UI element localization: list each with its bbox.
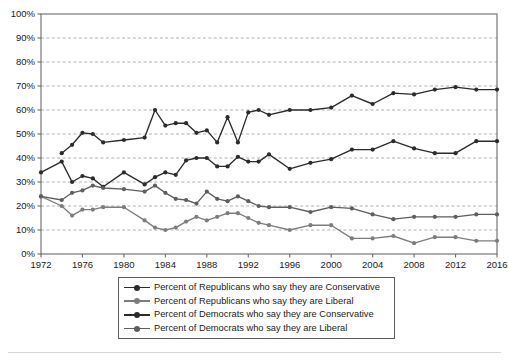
y-tick-label: 40%	[16, 152, 36, 163]
data-point	[267, 223, 271, 227]
data-point	[122, 187, 126, 191]
data-point	[122, 138, 126, 142]
data-point	[215, 140, 219, 144]
y-tick-label: 90%	[16, 32, 36, 43]
legend-item-dem-liberal[interactable]: Percent of Democrats who say they are Li…	[124, 322, 389, 336]
data-point	[60, 204, 64, 208]
data-point	[412, 146, 416, 150]
data-point	[80, 208, 84, 212]
x-tick-label: 2012	[445, 259, 466, 270]
data-point	[91, 208, 95, 212]
data-point	[257, 160, 261, 164]
series-line	[41, 186, 497, 220]
data-point	[80, 188, 84, 192]
data-point	[70, 214, 74, 218]
line-marker-icon	[124, 309, 150, 321]
data-point	[288, 205, 292, 209]
series-dem_conservative	[39, 139, 499, 189]
chart-legend: Percent of Republicans who say they are …	[118, 277, 395, 339]
data-point	[329, 106, 333, 110]
data-point	[236, 211, 240, 215]
y-tick-label: 0%	[21, 248, 35, 259]
data-point	[60, 198, 64, 202]
data-point	[122, 170, 126, 174]
data-point	[174, 197, 178, 201]
data-point	[257, 108, 261, 112]
data-point	[143, 190, 147, 194]
data-point	[143, 218, 147, 222]
legend-label: Percent of Democrats who say they are Co…	[154, 308, 374, 322]
data-point	[267, 152, 271, 156]
data-point	[60, 151, 64, 155]
bottom-divider	[8, 352, 501, 353]
x-tick-label: 2000	[321, 259, 342, 270]
data-point	[391, 91, 395, 95]
data-point	[80, 131, 84, 135]
data-point	[184, 121, 188, 125]
data-point	[308, 210, 312, 214]
legend-item-rep-liberal[interactable]: Percent of Republicans who say they are …	[124, 295, 389, 309]
legend-label: Percent of Republicans who say they are …	[154, 281, 380, 295]
data-point	[267, 113, 271, 117]
data-point	[288, 167, 292, 171]
data-point	[91, 184, 95, 188]
y-tick-label: 10%	[16, 224, 36, 235]
line-marker-icon	[124, 282, 150, 294]
data-point	[184, 220, 188, 224]
data-point	[225, 211, 229, 215]
data-point	[80, 174, 84, 178]
y-tick-label: 20%	[16, 200, 36, 211]
data-point	[412, 215, 416, 219]
data-point	[174, 173, 178, 177]
data-point	[153, 108, 157, 112]
data-point	[205, 128, 209, 132]
line-marker-icon	[124, 323, 150, 335]
data-point	[225, 199, 229, 203]
data-point	[391, 217, 395, 221]
data-point	[101, 186, 105, 190]
line-marker-icon	[124, 295, 150, 307]
data-point	[246, 216, 250, 220]
data-point	[474, 88, 478, 92]
legend-item-rep-conservative[interactable]: Percent of Republicans who say they are …	[124, 281, 389, 295]
data-point	[174, 226, 178, 230]
data-point	[308, 108, 312, 112]
data-point	[70, 191, 74, 195]
data-point	[194, 156, 198, 160]
data-point	[433, 215, 437, 219]
data-point	[153, 226, 157, 230]
legend-dot	[134, 285, 140, 291]
data-point	[246, 199, 250, 203]
data-point	[91, 132, 95, 136]
data-point	[371, 212, 375, 216]
data-point	[194, 215, 198, 219]
x-tick-label: 1988	[196, 259, 217, 270]
legend-label: Percent of Republicans who say they are …	[154, 295, 353, 309]
data-point	[474, 212, 478, 216]
data-point	[163, 228, 167, 232]
data-point	[453, 235, 457, 239]
legend-item-dem-conservative[interactable]: Percent of Democrats who say they are Co…	[124, 308, 389, 322]
data-point	[194, 131, 198, 135]
series-line	[41, 196, 497, 243]
y-tick-label: 80%	[16, 56, 36, 67]
data-point	[350, 94, 354, 98]
data-point	[60, 160, 64, 164]
data-point	[205, 218, 209, 222]
data-point	[371, 148, 375, 152]
data-point	[91, 176, 95, 180]
data-point	[433, 151, 437, 155]
data-point	[391, 234, 395, 238]
data-point	[495, 239, 499, 243]
x-axis-tick-labels: 1972197619801984198819921996200020042008…	[30, 254, 507, 270]
data-point	[329, 223, 333, 227]
data-point	[143, 182, 147, 186]
data-point	[153, 175, 157, 179]
gridlines	[41, 38, 497, 230]
data-point	[495, 88, 499, 92]
data-point	[246, 110, 250, 114]
y-axis-tick-labels: 0%10%20%30%40%50%60%70%80%90%100%	[11, 8, 41, 259]
data-point	[194, 202, 198, 206]
data-point	[371, 102, 375, 106]
data-point	[474, 239, 478, 243]
